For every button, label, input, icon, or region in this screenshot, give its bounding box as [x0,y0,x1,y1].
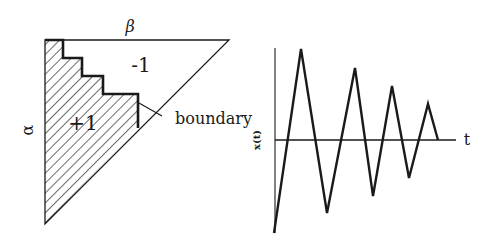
figure: β α -1 +1 boundary x(t) t [0,0,495,247]
beta-label: β [124,17,134,36]
damped-wave [274,49,438,233]
boundary-label: boundary [175,109,252,128]
x-axis-label: t [464,130,471,149]
triangle-diagram: β α -1 +1 boundary [18,17,252,224]
boundary-pointer [139,103,162,116]
minus-one-label: -1 [131,53,150,77]
alpha-label: α [18,124,37,135]
plus-one-label: +1 [68,111,97,135]
y-axis-label: x(t) [251,130,262,150]
oscillation-plot: x(t) t [251,48,471,233]
